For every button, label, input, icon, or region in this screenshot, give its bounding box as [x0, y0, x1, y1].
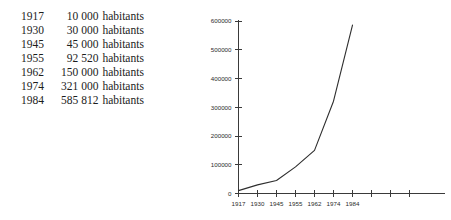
- row-year: 1917: [21, 9, 61, 23]
- row-year: 1955: [21, 51, 61, 65]
- table-row: 1917 10 000 habitants: [21, 9, 144, 23]
- y-tick-label: 500000: [211, 46, 232, 53]
- row-count: 585 812: [61, 93, 102, 107]
- row-unit: habitants: [102, 65, 144, 79]
- x-tick-label: 1917: [232, 200, 246, 207]
- row-unit: habitants: [102, 93, 144, 107]
- chart-svg: 0100000200000300000400000500000600000 19…: [190, 0, 451, 220]
- x-tick-label: 1955: [289, 200, 303, 207]
- population-table: 1917 10 000 habitants 1930 30 000 habita…: [21, 9, 144, 107]
- x-axis-ticks: 1917193019451955196219741984: [232, 190, 410, 207]
- x-tick-label: 1974: [327, 200, 341, 207]
- table-row: 1930 30 000 habitants: [21, 23, 144, 37]
- table-row: 1945 45 000 habitants: [21, 37, 144, 51]
- row-year: 1945: [21, 37, 61, 51]
- row-unit: habitants: [102, 51, 144, 65]
- table-row: 1955 92 520 habitants: [21, 51, 144, 65]
- row-count: 150 000: [61, 65, 102, 79]
- y-tick-label: 300000: [211, 104, 232, 111]
- y-tick-label: 200000: [211, 132, 232, 139]
- row-unit: habitants: [102, 79, 144, 93]
- table-row: 1962 150 000 habitants: [21, 65, 144, 79]
- row-unit: habitants: [102, 9, 144, 23]
- row-year: 1930: [21, 23, 61, 37]
- row-year: 1984: [21, 93, 61, 107]
- series-line-habitants: [239, 25, 353, 191]
- row-count: 30 000: [61, 23, 102, 37]
- row-count: 10 000: [61, 9, 102, 23]
- y-tick-label: 0: [228, 190, 232, 197]
- y-tick-label: 100000: [211, 161, 232, 168]
- population-line-chart: 0100000200000300000400000500000600000 19…: [190, 0, 451, 220]
- x-tick-label: 1962: [308, 200, 322, 207]
- y-axis-ticks: 0100000200000300000400000500000600000: [211, 17, 242, 197]
- table-row: 1974 321 000 habitants: [21, 79, 144, 93]
- table-body: 1917 10 000 habitants 1930 30 000 habita…: [21, 9, 144, 107]
- y-tick-label: 600000: [211, 17, 232, 24]
- row-year: 1974: [21, 79, 61, 93]
- row-unit: habitants: [102, 23, 144, 37]
- row-year: 1962: [21, 65, 61, 79]
- row-count: 45 000: [61, 37, 102, 51]
- row-unit: habitants: [102, 37, 144, 51]
- x-tick-label: 1930: [251, 200, 265, 207]
- table-row: 1984 585 812 habitants: [21, 93, 144, 107]
- row-count: 92 520: [61, 51, 102, 65]
- x-tick-label: 1945: [270, 200, 284, 207]
- x-tick-label: 1984: [346, 200, 360, 207]
- row-count: 321 000: [61, 79, 102, 93]
- y-tick-label: 400000: [211, 75, 232, 82]
